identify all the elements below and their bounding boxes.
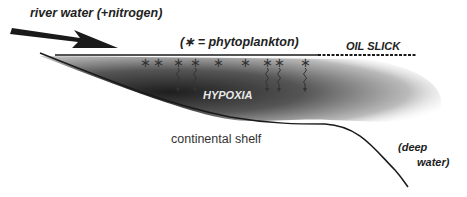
svg-text:∗: ∗: [300, 55, 311, 70]
deep-water-label-line2: water): [417, 156, 449, 168]
phytoplankton-legend: (∗ = phytoplankton): [180, 34, 299, 49]
river-arrow-icon: [10, 28, 118, 48]
svg-text:∗: ∗: [274, 55, 285, 70]
svg-text:∗: ∗: [190, 55, 201, 70]
svg-text:∗: ∗: [213, 55, 224, 70]
svg-text:∗: ∗: [140, 55, 151, 70]
deep-water-label-line1: (deep: [398, 141, 427, 153]
svg-text:∗: ∗: [173, 55, 184, 70]
continental-shelf-label: continental shelf: [171, 132, 261, 146]
svg-text:∗: ∗: [262, 55, 273, 70]
river-water-label: river water (+nitrogen): [30, 6, 162, 20]
oil-slick-label: OIL SLICK: [346, 40, 400, 52]
hypoxia-label: HYPOXIA: [203, 89, 253, 101]
hypoxia-diagram: ∗ ∗ ∗ ∗ ∗ ∗ ∗ ∗ ∗ river water (+nitrogen…: [0, 0, 467, 197]
svg-text:∗: ∗: [153, 55, 164, 70]
svg-text:∗: ∗: [240, 55, 251, 70]
